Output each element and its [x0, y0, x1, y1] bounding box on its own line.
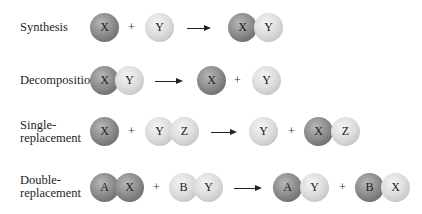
reaction-arrow [187, 28, 209, 29]
atom-b: B [355, 173, 384, 202]
plus-sign: + [153, 180, 160, 195]
reaction-arrow [211, 132, 235, 133]
atom-x: X [381, 173, 410, 202]
atom-z: Z [170, 117, 199, 146]
atom-y: Y [194, 173, 223, 202]
plus-sign: + [128, 124, 135, 139]
row-label-single-replacement: Single- replacement [20, 119, 81, 145]
atom-z: Z [331, 117, 360, 146]
label-line: replacement [20, 187, 81, 200]
atom-y: Y [249, 117, 278, 146]
atom-y: Y [145, 13, 174, 42]
plus-sign: + [128, 20, 135, 35]
atom-y: Y [300, 173, 329, 202]
atom-x: X [197, 66, 226, 95]
atom-x: X [228, 13, 257, 42]
reaction-arrow [155, 81, 181, 82]
atom-x: X [115, 173, 144, 202]
atom-x: X [304, 117, 333, 146]
atom-y: Y [254, 13, 283, 42]
row-label-decomposition: Decomposition [20, 74, 96, 87]
label-line: replacement [20, 132, 81, 145]
plus-sign: + [339, 180, 346, 195]
atom-x: X [90, 117, 119, 146]
atom-y: Y [115, 66, 144, 95]
row-label-double-replacement: Double- replacement [20, 174, 81, 200]
reaction-arrow [234, 188, 260, 189]
plus-sign: + [288, 124, 295, 139]
atom-x: X [90, 13, 119, 42]
row-label-synthesis: Synthesis [20, 21, 68, 34]
atom-y: Y [252, 66, 281, 95]
atom-a: A [273, 173, 302, 202]
plus-sign: + [234, 73, 241, 88]
